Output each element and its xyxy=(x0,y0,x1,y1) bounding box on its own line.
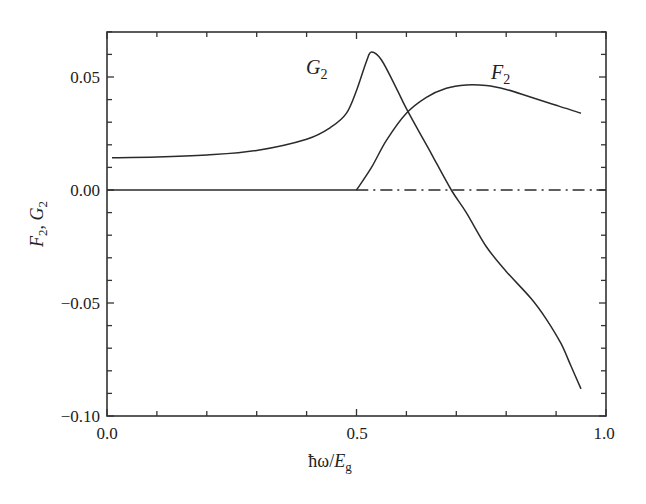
series-layer xyxy=(107,52,606,389)
x-tick-label-1.0: 1.0 xyxy=(593,424,614,443)
y-tick-label-neg-0.10: −0.10 xyxy=(61,407,100,426)
x-tick-label-0.0: 0.0 xyxy=(96,424,117,443)
x-axis-title: ħω/Eg xyxy=(308,451,352,474)
y-tick-label-neg-0.05: −0.05 xyxy=(61,294,100,313)
y-tick-label-0.05: 0.05 xyxy=(70,68,100,87)
y-axis-title: F2, G2 xyxy=(27,201,50,248)
x-tick-label-0.5: 0.5 xyxy=(346,424,367,443)
series-line-g-2 xyxy=(112,52,581,389)
series-label-f2: F2 xyxy=(490,61,510,87)
series-line-f-2 xyxy=(107,85,581,190)
chart: 0.05 0.00 −0.05 −0.10 0.0 0.5 1.0 ħω/Eg … xyxy=(0,0,646,504)
y-tick-label-0.00: 0.00 xyxy=(70,181,100,200)
series-label-g2: G2 xyxy=(306,56,327,82)
